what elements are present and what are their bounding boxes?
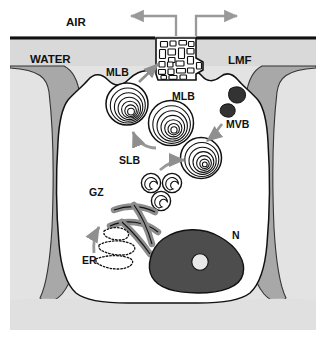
label-gz: GZ (89, 186, 104, 198)
small-lamellar-body-3 (151, 191, 170, 210)
diagram-canvas: AIR WATER LMF MLB MLB MVB SLB GZ ER N (0, 0, 326, 364)
multilamellar-body-secreting (106, 83, 148, 125)
label-air: AIR (66, 16, 87, 28)
multilamellar-body-cytoplasmic (149, 101, 194, 146)
air-space-region (10, 0, 316, 36)
label-lmf: LMF (228, 54, 252, 66)
multivesicular-body-lower (220, 104, 235, 117)
label-mlb-center: MLB (172, 90, 195, 102)
tubular-myelin-lattice (156, 38, 203, 80)
label-n: N (232, 229, 240, 241)
small-lamellar-body-2 (162, 173, 181, 192)
surfactant-secretion-figure: AIR WATER LMF MLB MLB MVB SLB GZ ER N (0, 0, 326, 364)
multivesicular-body-upper (229, 87, 246, 103)
label-mvb: MVB (226, 118, 250, 130)
label-mlb-upper: MLB (106, 66, 129, 78)
nucleolus (192, 254, 208, 270)
multilamellar-body-maturing (181, 138, 222, 179)
small-lamellar-body-1 (141, 173, 160, 192)
label-water: WATER (30, 53, 71, 65)
label-slb: SLB (119, 154, 140, 166)
label-er: ER (82, 254, 97, 266)
